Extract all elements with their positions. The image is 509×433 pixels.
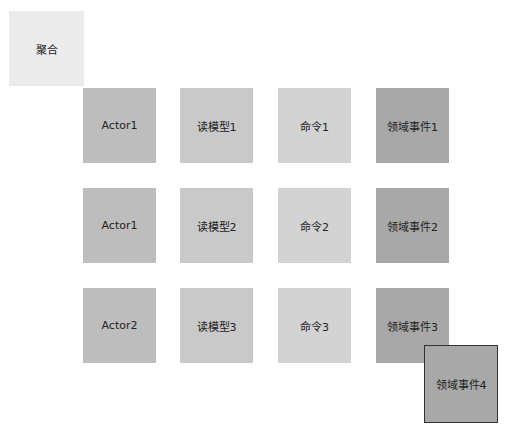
read-model-label: 读模型3: [197, 318, 237, 334]
command-card[interactable]: 命令3: [278, 288, 351, 363]
actor-label: Actor1: [102, 219, 138, 232]
command-label: 命令2: [300, 218, 329, 234]
actor-label: Actor2: [102, 319, 138, 332]
domain-event-label: 领域事件3: [387, 318, 438, 334]
command-label: 命令3: [300, 318, 329, 334]
aggregate-label: 聚合: [36, 41, 58, 57]
domain-event-card-selected[interactable]: 领域事件4: [424, 345, 498, 423]
domain-event-card[interactable]: 领域事件2: [376, 188, 449, 263]
command-label: 命令1: [300, 118, 329, 134]
read-model-label: 读模型2: [197, 218, 237, 234]
actor-card[interactable]: Actor1: [83, 188, 156, 263]
command-card[interactable]: 命令1: [278, 88, 351, 163]
domain-event-label: 领域事件2: [387, 218, 438, 234]
read-model-label: 读模型1: [197, 118, 237, 134]
actor-card[interactable]: Actor2: [83, 288, 156, 363]
domain-event-card[interactable]: 领域事件1: [376, 88, 449, 163]
aggregate-card[interactable]: 聚合: [9, 11, 84, 86]
read-model-card[interactable]: 读模型2: [180, 188, 253, 263]
read-model-card[interactable]: 读模型3: [180, 288, 253, 363]
command-card[interactable]: 命令2: [278, 188, 351, 263]
domain-event-label: 领域事件4: [436, 376, 487, 392]
actor-card[interactable]: Actor1: [83, 88, 156, 163]
actor-label: Actor1: [102, 119, 138, 132]
domain-event-label: 领域事件1: [387, 118, 438, 134]
read-model-card[interactable]: 读模型1: [180, 88, 253, 163]
